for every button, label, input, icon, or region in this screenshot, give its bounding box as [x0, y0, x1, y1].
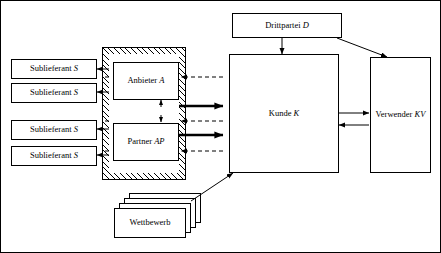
arrow-wettbewerb-to-kunde	[191, 173, 233, 201]
diagram-canvas: Sublieferant S Sublieferant S Subliefera…	[0, 0, 441, 253]
arrow-drittpartei-to-verwender	[337, 38, 387, 57]
connector-layer	[1, 1, 441, 253]
